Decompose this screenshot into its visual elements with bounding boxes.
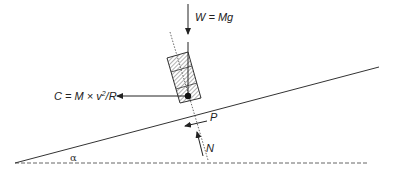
angle-alpha-label: α — [70, 152, 77, 163]
friction-arrow — [185, 121, 207, 126]
normal-force-label: N — [206, 142, 214, 154]
weight-label: W = Mg — [195, 11, 234, 23]
banked-curve-diagram: W = Mg C = M × v2/R P N α — [0, 0, 394, 173]
friction-label: P — [210, 111, 218, 123]
force-diagram-svg: W = Mg C = M × v2/R P N α — [0, 0, 394, 173]
incline-line — [15, 67, 379, 163]
centrifugal-force-label: C = M × v2/R — [54, 90, 117, 102]
vehicle-block — [167, 52, 201, 103]
normal-force-arrow — [197, 132, 203, 156]
center-of-mass-dot — [185, 93, 191, 99]
